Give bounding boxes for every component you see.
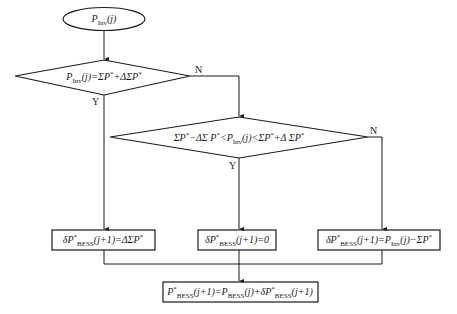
b3-b: (j+1)=P (357, 234, 391, 245)
d2-d: (j)<ΣP (242, 132, 270, 143)
d2-b: −ΔΣ P (189, 132, 216, 143)
b3-a: δP (326, 234, 337, 245)
decision2-label: ΣP*−ΔΣ P*<PInv(j)<ΣP*+Δ ΣP* (174, 132, 305, 144)
b1-a-sub: BESS (77, 240, 94, 248)
b4-c-sub: BESS (275, 292, 292, 300)
edge-decision1-decision2 (190, 76, 239, 116)
d1-c-sup: * (138, 70, 142, 78)
b1-a: δP (63, 234, 74, 245)
b3-a-sub: BESS (340, 240, 357, 248)
edge-box1-merge (104, 250, 239, 264)
b3-c-sup: * (429, 233, 433, 241)
b2-b: (j+1)=0 (236, 234, 269, 245)
edge-box3-merge (239, 250, 382, 264)
box3-label: δP*BESS(j+1)=PInv(j)−ΣP* (326, 234, 432, 246)
decision1-label: PInv(j)=ΣP*+ΔΣP* (66, 71, 141, 83)
flowchart-canvas (0, 0, 457, 314)
start-label-tail: (j) (107, 13, 116, 24)
box1-label: δP*BESS(j+1)=ΔΣP* (63, 234, 143, 246)
b3-c: (j)−ΣP (400, 234, 428, 245)
box2-label: δP*BESS(j+1)=0 (205, 234, 269, 246)
b4-b: (j+1)=P (194, 286, 228, 297)
d2-a: ΣP (174, 132, 186, 143)
d1-b: (j)=ΣP (82, 71, 110, 82)
b2-a-sub: BESS (219, 240, 236, 248)
decision2-yes-label: Y (229, 160, 236, 172)
decision1-no-label: N (195, 64, 202, 76)
d2-e-sup: * (301, 131, 305, 139)
d2-e: +Δ ΣP (274, 132, 301, 143)
d2-c: <P (220, 132, 233, 143)
b4-c: (j)+δP (244, 286, 271, 297)
edge-decision2-box3 (368, 137, 382, 229)
box4-label: P*BESS(j+1)=PBESS(j)+δP*BESS(j+1) (167, 286, 313, 298)
b1-b: (j+1)=ΔΣP (94, 234, 140, 245)
b3-b-sub: Inv (391, 240, 400, 248)
b4-a-sub: BESS (177, 292, 194, 300)
d1-c: +ΔΣP (114, 71, 139, 82)
start-label: PInv(j) (92, 13, 117, 25)
b2-a: δP (205, 234, 216, 245)
decision1-yes-label: Y (92, 96, 99, 108)
b4-b-sub: BESS (228, 292, 245, 300)
decision2-no-label: N (370, 125, 377, 137)
b1-b-sup: * (140, 233, 144, 241)
b4-d: (j+1) (292, 286, 313, 297)
